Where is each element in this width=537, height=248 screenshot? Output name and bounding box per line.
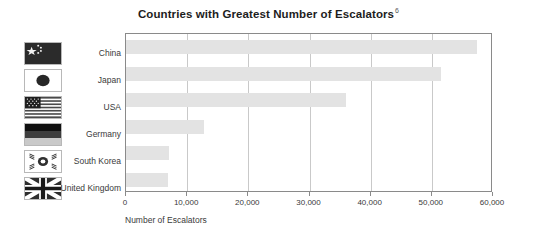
category-label-usa: USA — [3, 102, 121, 112]
x-tick-label: 40,000 — [357, 198, 381, 207]
chart-title-footnote-marker: 6 — [395, 7, 399, 14]
gridline — [371, 34, 372, 191]
x-tick-label: 0 — [123, 198, 127, 207]
category-label-japan: Japan — [3, 75, 121, 85]
bar-usa — [126, 93, 346, 107]
escalators-bar-chart-figure: Countries with Greatest Number of Escala… — [0, 0, 537, 248]
x-tick — [186, 192, 187, 196]
chart-title-text: Countries with Greatest Number of Escala… — [138, 8, 394, 20]
x-tick — [309, 192, 310, 196]
x-tick — [125, 192, 126, 196]
bar-china — [126, 40, 477, 54]
x-tick-label: 20,000 — [235, 198, 259, 207]
category-label-china: China — [3, 48, 121, 58]
gridline — [310, 34, 311, 191]
category-label-united-kingdom: United Kingdom — [3, 183, 121, 193]
plot-area — [125, 33, 492, 192]
gridline — [432, 34, 433, 191]
x-tick-label: 30,000 — [296, 198, 320, 207]
bar-united-kingdom — [126, 173, 168, 187]
x-axis-title: Number of Escalators — [125, 215, 207, 225]
bar-germany — [126, 120, 204, 134]
bar-japan — [126, 67, 441, 81]
gridline — [187, 34, 188, 191]
x-tick — [431, 192, 432, 196]
category-label-south-korea: South Korea — [3, 156, 121, 166]
x-tick — [370, 192, 371, 196]
bar-south-korea — [126, 146, 169, 160]
category-label-column: China Japan USA Germany South Korea Unit… — [0, 0, 121, 248]
x-tick-label: 60,000 — [480, 198, 504, 207]
x-tick — [492, 192, 493, 196]
gridline — [248, 34, 249, 191]
x-tick-label: 50,000 — [419, 198, 443, 207]
category-label-germany: Germany — [3, 129, 121, 139]
x-tick — [247, 192, 248, 196]
x-tick-label: 10,000 — [174, 198, 198, 207]
